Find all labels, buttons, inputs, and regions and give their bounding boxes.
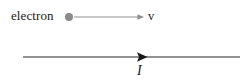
right-arrowhead-icon (138, 14, 145, 19)
electron-label: electron (11, 9, 54, 22)
velocity-arrow-group (65, 13, 144, 21)
current-line-group (23, 52, 240, 62)
current-label: I (137, 64, 142, 78)
physics-diagram: electron v I (0, 0, 240, 84)
velocity-label: v (148, 10, 154, 23)
filled-circle-icon (65, 13, 73, 21)
